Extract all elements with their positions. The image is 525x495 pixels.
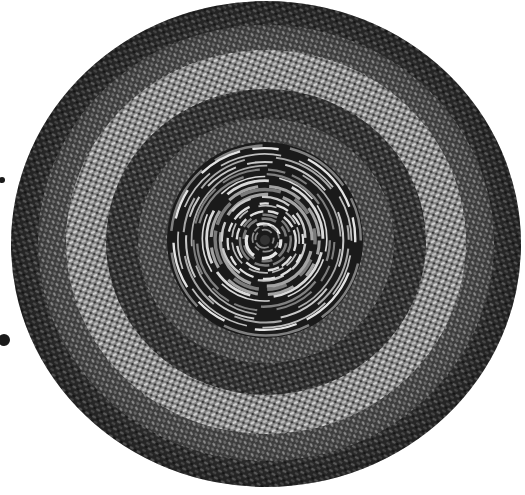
rug-image (0, 0, 525, 495)
edge-artifacts (0, 177, 10, 346)
rug-photo (0, 0, 525, 495)
